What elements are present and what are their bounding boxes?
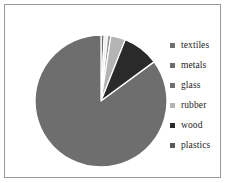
legend-swatch-icon bbox=[170, 123, 175, 128]
legend-item-label: plastics bbox=[181, 140, 210, 150]
legend-swatch-icon bbox=[170, 103, 175, 108]
legend-item-label: metals bbox=[181, 60, 206, 70]
pie-plot-area bbox=[10, 10, 160, 183]
pie-chart bbox=[34, 34, 168, 168]
chart-legend: textilesmetalsglassrubberwoodplastics bbox=[170, 38, 226, 160]
legend-item-wood[interactable]: wood bbox=[170, 118, 203, 132]
legend-item-label: glass bbox=[181, 80, 201, 90]
pie-svg bbox=[34, 34, 168, 168]
legend-item-label: textiles bbox=[181, 40, 209, 50]
legend-item-metals[interactable]: metals bbox=[170, 58, 206, 72]
figure-border: textilesmetalsglassrubberwoodplastics bbox=[4, 4, 221, 178]
legend-item-glass[interactable]: glass bbox=[170, 78, 201, 92]
legend-item-rubber[interactable]: rubber bbox=[170, 98, 206, 112]
legend-item-textiles[interactable]: textiles bbox=[170, 38, 209, 52]
pie-slice-group bbox=[35, 35, 167, 167]
legend-swatch-icon bbox=[170, 43, 175, 48]
legend-item-plastics[interactable]: plastics bbox=[170, 138, 210, 152]
legend-item-label: rubber bbox=[181, 100, 206, 110]
legend-item-label: wood bbox=[181, 120, 203, 130]
legend-swatch-icon bbox=[170, 143, 175, 148]
legend-swatch-icon bbox=[170, 63, 175, 68]
chart-figure: textilesmetalsglassrubberwoodplastics bbox=[0, 0, 226, 183]
legend-swatch-icon bbox=[170, 83, 175, 88]
